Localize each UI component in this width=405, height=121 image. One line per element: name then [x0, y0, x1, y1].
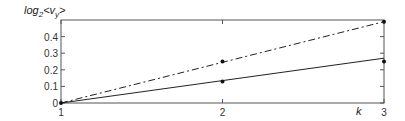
data-point: [221, 79, 225, 83]
x-axis-label: k: [356, 105, 362, 117]
y-tick-label: 0.3: [44, 48, 58, 59]
x-tick-label: 2: [220, 107, 226, 118]
y-tick-label: 0.1: [44, 81, 58, 92]
x-tick-label: 1: [58, 107, 64, 118]
data-point: [382, 20, 386, 24]
data-point: [59, 101, 63, 105]
y-tick-label: 0.2: [44, 65, 58, 76]
y-tick-label: 0.4: [44, 32, 58, 43]
data-point: [382, 60, 386, 64]
y-axis-label: log2<vy>: [24, 4, 66, 19]
x-tick-label: 3: [381, 107, 387, 118]
data-point: [221, 60, 225, 64]
